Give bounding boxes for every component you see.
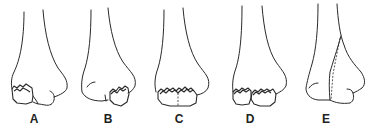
- panel-a-drawing: [11, 10, 67, 105]
- panel-label-d: D: [240, 112, 260, 126]
- panel-label-a: A: [24, 112, 44, 126]
- panel-label-c: C: [169, 112, 189, 126]
- panel-e-drawing: [306, 4, 365, 103]
- panel-b-drawing: [82, 8, 136, 106]
- panel-d-drawing: [233, 6, 287, 106]
- panel-label-b: B: [98, 112, 118, 126]
- panel-label-e: E: [316, 112, 336, 126]
- panel-c-drawing: [155, 8, 209, 106]
